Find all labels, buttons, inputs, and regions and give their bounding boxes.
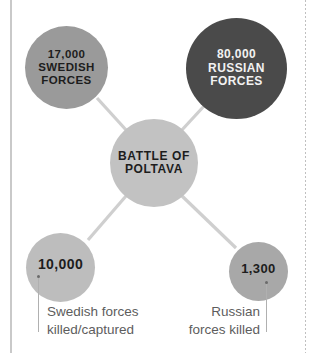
node-russian-forces: 80,000 RUSSIAN FORCES — [186, 18, 287, 119]
node-battle-of-poltava-label: BATTLE OF POLTAVA — [118, 150, 190, 177]
poltava-infographic: 17,000 SWEDISH FORCES 80,000 RUSSIAN FOR… — [0, 0, 309, 353]
caption-swedish-losses: Swedish forces killed/captured — [47, 303, 139, 339]
node-battle-of-poltava: BATTLE OF POLTAVA — [110, 119, 198, 207]
leader-line-swedish-losses — [38, 278, 39, 332]
node-russian-forces-label: 80,000 RUSSIAN FORCES — [208, 48, 265, 88]
node-swedish-forces: 17,000 SWEDISH FORCES — [25, 26, 108, 109]
node-swedish-losses-label: 10,000 — [38, 257, 83, 273]
node-swedish-forces-label: 17,000 SWEDISH FORCES — [38, 48, 94, 87]
node-swedish-losses: 10,000 — [26, 233, 95, 302]
node-russian-losses: 1,300 — [229, 242, 288, 301]
node-russian-losses-label: 1,300 — [241, 262, 276, 277]
caption-russian-losses: Russian forces killed — [160, 303, 260, 339]
leader-line-russian-losses — [266, 284, 267, 332]
